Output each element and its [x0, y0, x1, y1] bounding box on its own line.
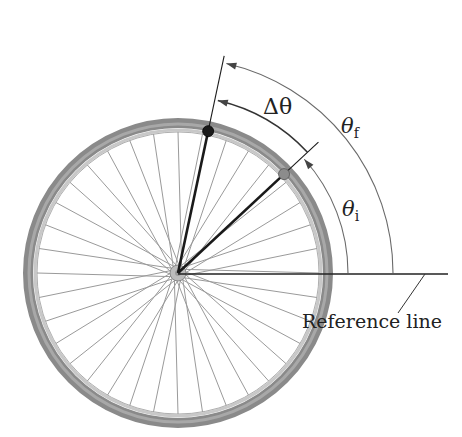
theta-i-subscript: i — [355, 208, 360, 224]
spoke — [87, 165, 178, 268]
final-position-dot — [203, 126, 214, 137]
reference-line-label: Reference line — [302, 310, 442, 332]
rotating-wheel-diagram: Δθ θf θi Reference line — [0, 0, 462, 437]
delta-theta-arrowhead-icon — [218, 100, 229, 107]
spoke — [70, 278, 178, 364]
spoke — [179, 278, 300, 344]
theta-f-arc — [226, 64, 393, 273]
theta-i-symbol: θ — [342, 197, 355, 221]
angle-arcs — [218, 63, 393, 273]
radius-lines — [178, 56, 318, 273]
diagram-canvas: Δθ θf θi Reference line — [0, 0, 462, 437]
spoke — [108, 151, 174, 272]
initial-position-dot — [279, 169, 290, 180]
final-radius-line — [178, 131, 208, 273]
spoke — [182, 271, 310, 322]
spoke — [181, 277, 317, 297]
spoke — [46, 225, 174, 276]
spoke — [87, 273, 173, 381]
theta-f-subscript: f — [354, 125, 361, 141]
theta-f-symbol: θ — [341, 114, 354, 138]
spoke — [182, 276, 202, 412]
delta-theta-label: Δθ — [263, 94, 292, 119]
spoke — [183, 274, 249, 395]
spoke — [176, 277, 227, 405]
reference-leader-line — [398, 274, 425, 313]
final-extension-line — [208, 56, 224, 131]
spoke — [56, 203, 177, 269]
theta-i-label: θi — [342, 197, 360, 224]
spoke — [70, 182, 173, 273]
spoke — [183, 272, 286, 363]
theta-f-label: θf — [341, 114, 361, 141]
spoke — [39, 249, 175, 269]
spoke — [177, 278, 268, 381]
spoke — [154, 134, 174, 270]
spoke — [130, 141, 181, 269]
theta-f-arrowhead-icon — [226, 63, 237, 70]
